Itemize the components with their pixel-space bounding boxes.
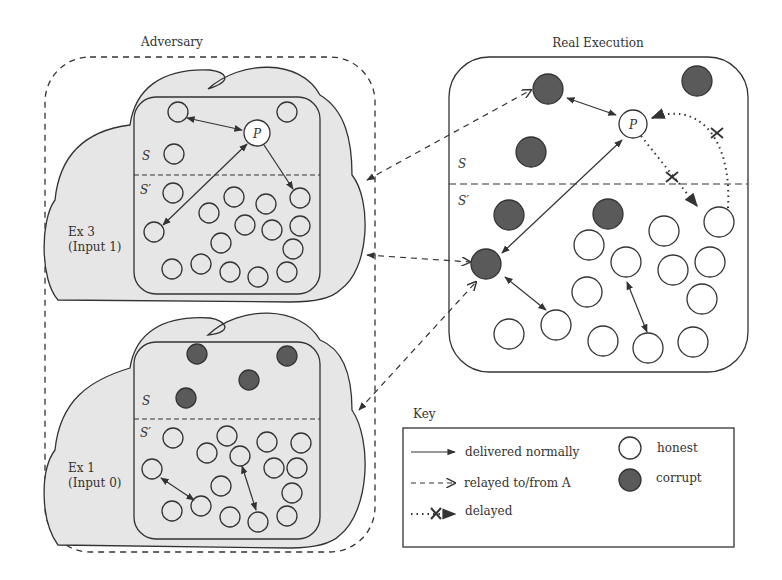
key-honest-label: honest — [657, 441, 698, 455]
honest-node — [168, 102, 188, 122]
honest-node — [264, 458, 284, 478]
honest-node — [162, 501, 182, 521]
honest-node — [290, 216, 310, 236]
honest-node — [704, 207, 734, 237]
corrupt-node — [277, 346, 297, 366]
honest-node — [197, 443, 217, 463]
honest-node — [283, 239, 303, 259]
ex1-s-label: S — [142, 394, 150, 408]
corrupt-node — [239, 370, 259, 390]
honest-node — [163, 183, 183, 203]
honest-node — [256, 194, 276, 214]
key-title: Key — [413, 407, 436, 421]
honest-node — [217, 426, 237, 446]
honest-node — [211, 233, 231, 253]
honest-node — [611, 247, 641, 277]
diagram-canvas: Adversary Real Execution S S′ Ex 3 (Inpu… — [0, 0, 782, 580]
honest-node — [633, 333, 663, 363]
real-s-label: S — [458, 157, 466, 171]
corrupt-node — [593, 199, 623, 229]
honest-node — [277, 102, 297, 122]
honest-node — [163, 428, 183, 448]
honest-node — [658, 255, 688, 285]
honest-node — [164, 144, 184, 164]
honest-node — [494, 319, 524, 349]
ex3-label: Ex 3 — [68, 225, 95, 239]
real-sprime-label: S′ — [458, 194, 469, 208]
ex1-label: Ex 1 — [68, 461, 95, 475]
ex3-input-label: (Input 1) — [68, 240, 122, 254]
key-honest-icon — [619, 437, 641, 459]
honest-node — [162, 259, 182, 279]
honest-node — [291, 433, 311, 453]
honest-node — [687, 284, 717, 314]
corrupt-node — [533, 74, 563, 104]
honest-node — [224, 187, 244, 207]
honest-node — [220, 507, 240, 527]
key-corrupt-icon — [619, 469, 641, 491]
ex3-s-label: S — [142, 149, 150, 163]
honest-node — [277, 262, 297, 282]
honest-node — [588, 326, 618, 356]
honest-node — [257, 432, 277, 452]
honest-node — [695, 247, 725, 277]
key-delayed-label: delayed — [465, 504, 513, 518]
real-p-label: P — [628, 118, 638, 132]
corrupt-node — [471, 249, 501, 279]
honest-node — [678, 327, 708, 357]
ex3-p-label: P — [252, 127, 262, 141]
honest-node — [574, 230, 604, 260]
key-delivered-label: delivered normally — [465, 445, 580, 459]
honest-node — [282, 483, 302, 503]
honest-node — [235, 215, 255, 235]
honest-node — [144, 222, 164, 242]
corrupt-node — [494, 200, 524, 230]
honest-node — [290, 188, 310, 208]
honest-node — [262, 220, 282, 240]
ex1-sprime-label: S′ — [140, 426, 151, 440]
honest-node — [649, 216, 679, 246]
honest-node — [230, 446, 250, 466]
honest-node — [142, 459, 162, 479]
ex3-sprime-label: S′ — [140, 183, 151, 197]
honest-node — [211, 476, 231, 496]
honest-node — [248, 512, 268, 532]
honest-node — [191, 254, 211, 274]
honest-node — [572, 277, 602, 307]
corrupt-node — [176, 388, 196, 408]
honest-node — [191, 496, 211, 516]
key-relayed-label: relayed to/from A — [464, 476, 571, 490]
corrupt-node — [682, 66, 712, 96]
key-corrupt-label: corrupt — [656, 471, 702, 485]
honest-node — [541, 310, 571, 340]
ex1-input-label: (Input 0) — [68, 476, 122, 490]
honest-node — [199, 203, 219, 223]
adversary-title: Adversary — [140, 35, 203, 49]
corrupt-node — [516, 137, 546, 167]
honest-node — [287, 458, 307, 478]
honest-node — [220, 262, 240, 282]
real-execution-title: Real Execution — [552, 36, 644, 50]
honest-node — [277, 506, 297, 526]
corrupt-node — [187, 344, 207, 364]
honest-node — [248, 267, 268, 287]
